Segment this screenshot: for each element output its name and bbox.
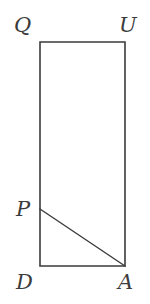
vertex-label-p: P (16, 199, 30, 220)
vertex-label-q: Q (14, 15, 31, 36)
vertex-label-d: D (16, 272, 33, 293)
vertex-label-a: A (118, 272, 133, 293)
figure-canvas (0, 0, 150, 304)
vertex-label-u: U (119, 15, 137, 36)
figure-background (0, 0, 150, 304)
geometry-figure: Q U P D A (0, 0, 150, 304)
